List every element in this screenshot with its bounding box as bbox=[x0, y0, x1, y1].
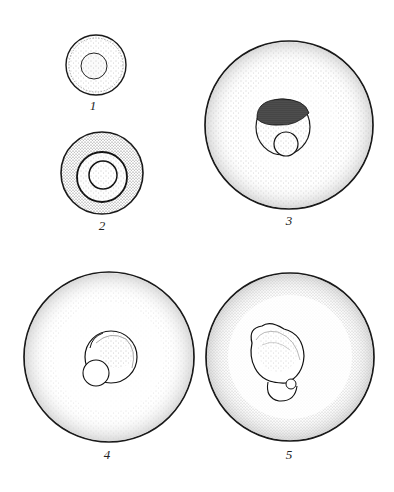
panel-2-cell bbox=[61, 132, 143, 214]
panel-4-egg bbox=[24, 272, 194, 442]
panel-5-label: 5 bbox=[279, 447, 299, 463]
panel-1-label: 1 bbox=[83, 98, 103, 114]
panel-5-egg bbox=[206, 273, 374, 441]
panel-3-egg bbox=[205, 41, 373, 209]
panel-3-label: 3 bbox=[279, 213, 299, 229]
panel-4-label: 4 bbox=[97, 447, 117, 463]
panel-1-cell bbox=[66, 35, 126, 95]
figure-canvas bbox=[0, 0, 394, 492]
panel-2-label: 2 bbox=[92, 218, 112, 234]
